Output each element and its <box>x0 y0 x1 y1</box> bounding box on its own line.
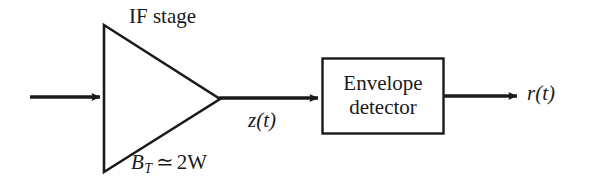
bandwidth-symbol: B <box>131 150 144 174</box>
envelope-detector-line-1: Envelope <box>343 72 422 96</box>
bandwidth-label: BT≃2W <box>131 152 207 176</box>
diagram-canvas <box>0 0 589 183</box>
bandwidth-value: 2W <box>177 150 207 174</box>
envelope-detector-line-2: detector <box>349 96 417 120</box>
approximately-equal-icon: ≃ <box>156 150 174 174</box>
output-signal-label: r(t) <box>527 83 555 104</box>
envelope-detector-text: Envelope detector <box>323 59 443 133</box>
z-signal-label: z(t) <box>248 110 276 131</box>
if-stage-label: IF stage <box>129 6 196 27</box>
block-diagram-figure: IF stage BT≃2W z(t) Envelope detector r(… <box>0 0 589 183</box>
bandwidth-subscript: T <box>144 161 152 176</box>
